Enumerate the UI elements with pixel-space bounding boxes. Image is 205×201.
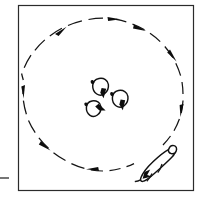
dash-segment bbox=[116, 19, 126, 22]
sheep-flock-cluster bbox=[84, 78, 128, 116]
sheep-3 bbox=[84, 101, 105, 116]
arena-frame bbox=[19, 6, 194, 191]
sheep-1 bbox=[91, 78, 109, 98]
dash-segment bbox=[150, 33, 160, 41]
figure-canvas: counter-clockwise 3 down down down-right… bbox=[0, 0, 205, 201]
dash-segment bbox=[35, 40, 45, 50]
dash-segment bbox=[29, 120, 36, 132]
dash-segment bbox=[174, 119, 179, 131]
dash-segment bbox=[68, 21, 82, 26]
dash-segment bbox=[163, 136, 171, 145]
dash-segment bbox=[182, 82, 183, 94]
shepherd-dog-head bbox=[168, 145, 176, 153]
shepherd-dog bbox=[135, 145, 177, 181]
path-arrow-right-lower bbox=[180, 104, 184, 117]
path-arrow-top-right bbox=[133, 25, 146, 32]
dash-segment bbox=[176, 63, 181, 75]
dash-segment bbox=[22, 74, 24, 81]
dash-segment bbox=[127, 164, 135, 167]
sheep-2 bbox=[110, 90, 128, 110]
path-arrow-lower-left bbox=[39, 141, 51, 151]
dash-segment bbox=[54, 153, 66, 161]
path-arrow-left bbox=[21, 85, 25, 99]
arena-boundary-rect bbox=[19, 6, 194, 191]
dash-segment bbox=[23, 101, 26, 115]
herding-diagram-svg bbox=[0, 0, 205, 201]
path-arrow-right bbox=[167, 50, 176, 62]
dash-segment bbox=[89, 18, 104, 19]
dash-segment bbox=[24, 55, 31, 67]
dash-segment bbox=[71, 164, 84, 169]
dash-segment bbox=[110, 169, 121, 171]
